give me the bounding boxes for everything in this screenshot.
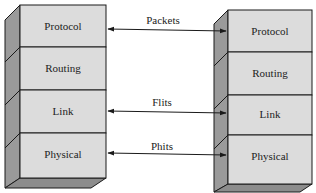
flits-arrow [108,111,226,113]
right-stack-side-face [214,10,228,192]
left-stack-bottom-face [5,178,106,188]
right-layer-link-label: Link [260,108,281,120]
right-stack-bottom-face [214,184,312,192]
flits-label: Flits [152,96,172,108]
right-layer-physical-label: Physical [251,150,288,162]
left-stack: Protocol Routing Link Physical [5,5,106,188]
left-stack-side-face [5,5,20,188]
connections: Packets Flits Phits [108,14,226,155]
phits-label: Phits [151,140,173,152]
left-layer-physical-label: Physical [44,148,81,160]
right-stack: Protocol Routing Link Physical [214,10,312,192]
packets-arrow [108,29,226,31]
right-layer-routing-label: Routing [252,67,288,79]
protocol-layers-diagram: Protocol Routing Link Physical Protocol … [0,0,316,193]
packets-label: Packets [146,14,180,26]
left-layer-link-label: Link [53,105,74,117]
phits-arrow [108,153,226,155]
right-layer-protocol-label: Protocol [251,25,288,37]
left-layer-routing-label: Routing [45,62,81,74]
left-layer-protocol-label: Protocol [44,20,81,32]
